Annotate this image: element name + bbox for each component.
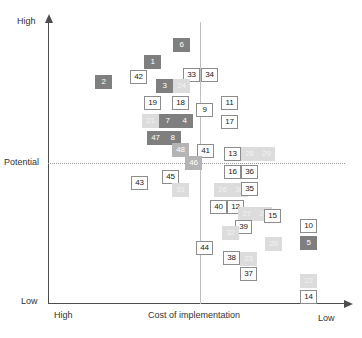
data-point-28[interactable]: 28 [241, 147, 258, 161]
data-point-31[interactable]: 31 [172, 183, 189, 197]
potential-threshold-label: Potential [4, 157, 39, 167]
data-point-6[interactable]: 6 [173, 38, 190, 52]
data-point-35[interactable]: 35 [241, 182, 258, 196]
data-point-23[interactable]: 23 [240, 252, 257, 266]
data-point-9[interactable]: 9 [196, 103, 213, 117]
data-point-26[interactable]: 26 [214, 183, 231, 197]
data-point-27[interactable]: 27 [238, 207, 255, 221]
y-axis-top-label: High [17, 16, 36, 26]
data-point-7[interactable]: 7 [159, 114, 176, 128]
x-axis-left-label: High [54, 310, 73, 320]
data-point-29[interactable]: 29 [258, 147, 275, 161]
y-axis-bottom-label: Low [21, 296, 38, 306]
data-point-14[interactable]: 14 [300, 290, 317, 304]
x-axis-right-label: Low [318, 313, 335, 323]
data-point-3[interactable]: 3 [156, 79, 173, 93]
data-point-4[interactable]: 4 [176, 114, 193, 128]
data-point-38[interactable]: 38 [223, 251, 240, 265]
data-point-17[interactable]: 17 [221, 115, 238, 129]
data-point-18[interactable]: 18 [172, 96, 189, 110]
data-point-5[interactable]: 5 [300, 236, 317, 250]
data-point-42[interactable]: 42 [130, 70, 147, 84]
data-point-37[interactable]: 37 [240, 267, 257, 281]
data-point-40[interactable]: 40 [210, 200, 227, 214]
data-point-22[interactable]: 22 [300, 274, 317, 288]
data-point-43[interactable]: 43 [131, 176, 148, 190]
data-point-15[interactable]: 15 [264, 209, 281, 223]
data-point-16[interactable]: 16 [224, 165, 241, 179]
data-point-44[interactable]: 44 [196, 241, 213, 255]
data-point-13[interactable]: 13 [224, 147, 241, 161]
prioritisation-matrix-chart: High Low Potential High Low Cost of impl… [0, 0, 362, 338]
data-point-21[interactable]: 21 [142, 114, 159, 128]
data-point-2[interactable]: 2 [95, 75, 112, 89]
data-point-24[interactable]: 24 [173, 79, 190, 93]
y-axis-arrow-icon [45, 14, 53, 23]
data-point-47[interactable]: 47 [147, 131, 164, 145]
x-axis-arrow-icon [344, 300, 353, 308]
data-point-20[interactable]: 20 [265, 237, 282, 251]
data-point-46[interactable]: 46 [185, 156, 202, 170]
data-point-48[interactable]: 48 [172, 143, 189, 157]
data-point-10[interactable]: 10 [300, 219, 317, 233]
data-point-1[interactable]: 1 [144, 55, 161, 69]
data-point-11[interactable]: 11 [221, 96, 238, 110]
data-point-19[interactable]: 19 [144, 96, 161, 110]
data-point-32[interactable]: 32 [222, 226, 239, 240]
data-point-34[interactable]: 34 [201, 68, 218, 82]
data-point-45[interactable]: 45 [162, 170, 179, 184]
data-point-36[interactable]: 36 [241, 165, 258, 179]
x-axis-title: Cost of implementation [148, 310, 240, 320]
